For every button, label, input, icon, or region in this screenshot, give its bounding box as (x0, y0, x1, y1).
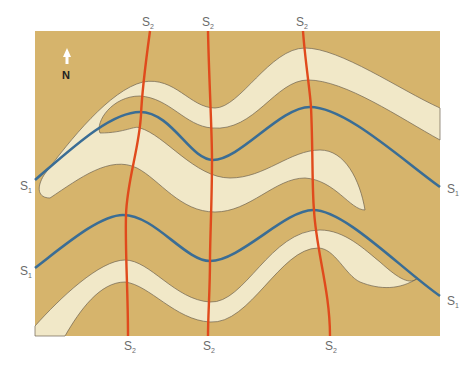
s2-label-bottom-2: S2 (203, 339, 215, 354)
s2-label-bottom-1: S2 (124, 339, 136, 354)
svg-text:S1: S1 (20, 179, 32, 194)
svg-text:S2: S2 (142, 15, 154, 30)
s1-label-left-upper: S1 (20, 179, 32, 194)
s1-label-left-lower: S1 (20, 264, 32, 279)
s1-label-right-lower: S1 (447, 294, 459, 309)
fold-map-diagram: N S2 S2 S2 S2 S2 S2 S1 S1 S1 S1 (0, 0, 471, 369)
s2-label-top-3: S2 (296, 15, 308, 30)
svg-text:S2: S2 (124, 339, 136, 354)
s2-label-bottom-3: S2 (325, 339, 337, 354)
svg-text:S1: S1 (447, 182, 459, 197)
svg-text:S2: S2 (325, 339, 337, 354)
svg-text:S2: S2 (203, 339, 215, 354)
svg-text:S1: S1 (20, 264, 32, 279)
s1-label-right-upper: S1 (447, 182, 459, 197)
s2-label-top-2: S2 (202, 15, 214, 30)
s2-label-top-1: S2 (142, 15, 154, 30)
north-label: N (62, 69, 70, 81)
svg-text:S2: S2 (202, 15, 214, 30)
svg-text:S2: S2 (296, 15, 308, 30)
svg-text:S1: S1 (447, 294, 459, 309)
